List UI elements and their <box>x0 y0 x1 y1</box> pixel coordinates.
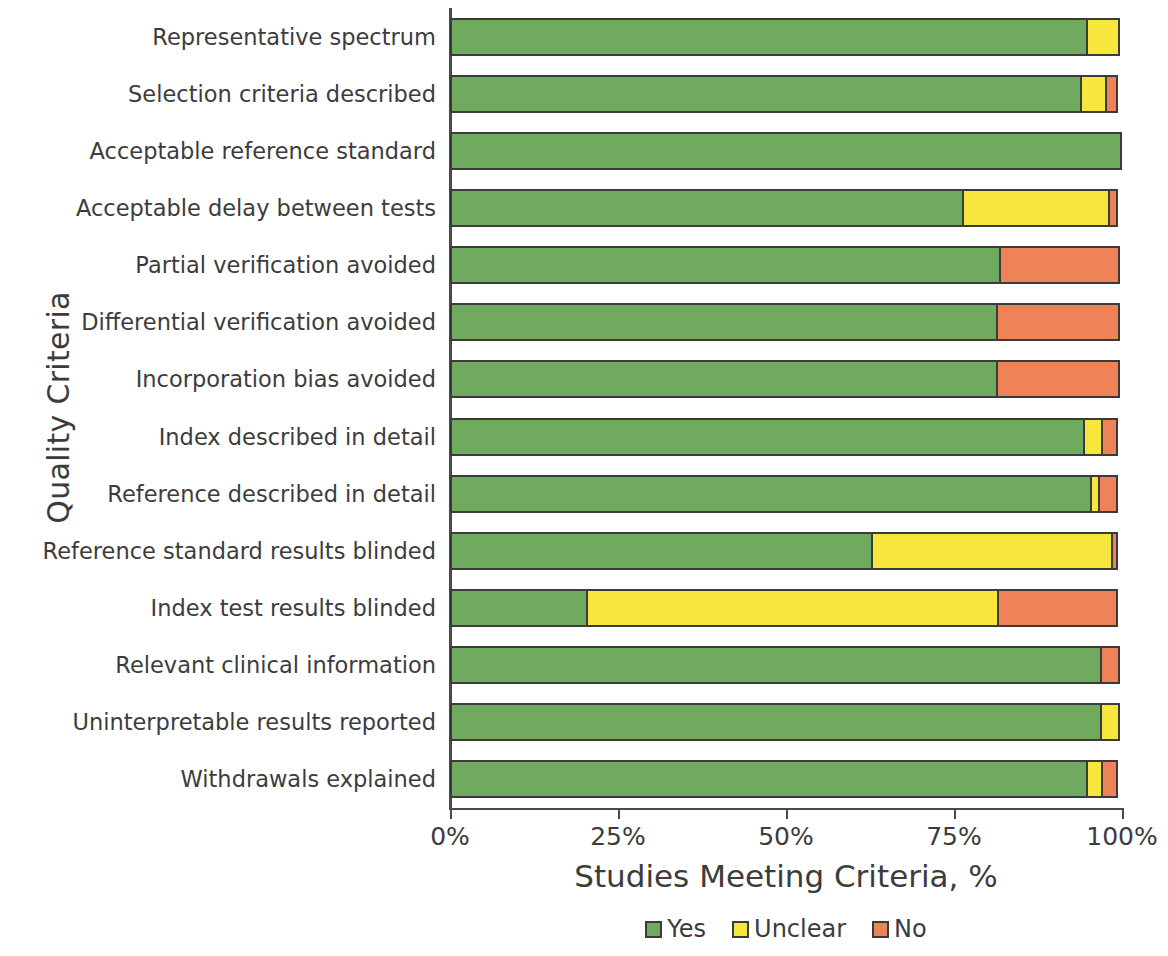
category-label: Acceptable delay between tests <box>20 189 450 227</box>
legend-label: No <box>894 915 927 943</box>
bar-segment-yes <box>450 360 998 398</box>
bar-segment-no <box>997 589 1118 627</box>
bar-segment-no <box>1098 475 1118 513</box>
x-axis-title: Studies Meeting Criteria, % <box>450 858 1122 894</box>
x-tick-mark <box>618 808 620 819</box>
legend-label: Yes <box>667 915 706 943</box>
bar-segment-yes <box>450 18 1088 56</box>
bar-segment-unclear <box>1086 18 1120 56</box>
category-label: Reference described in detail <box>20 475 450 513</box>
bar-segment-yes <box>450 532 873 570</box>
bar-segment-yes <box>450 646 1102 684</box>
bar-segment-yes <box>450 418 1085 456</box>
bar-track <box>450 189 1122 227</box>
bar-segment-no <box>999 246 1120 284</box>
x-tick-label: 50% <box>758 822 814 851</box>
y-axis-line <box>449 8 452 808</box>
bar-segment-yes <box>450 303 998 341</box>
bar-track <box>450 18 1122 56</box>
legend-item-no[interactable]: No <box>872 915 927 943</box>
legend-item-unclear[interactable]: Unclear <box>732 915 846 943</box>
bar-row: Representative spectrum <box>450 18 1122 56</box>
bar-segment-unclear <box>586 589 999 627</box>
x-tick-label: 0% <box>430 822 470 851</box>
category-label: Differential verification avoided <box>20 303 450 341</box>
bar-track <box>450 532 1122 570</box>
bar-row: Index test results blinded <box>450 589 1122 627</box>
bar-segment-yes <box>450 189 964 227</box>
legend-label: Unclear <box>754 915 846 943</box>
legend-item-yes[interactable]: Yes <box>645 915 706 943</box>
category-label: Reference standard results blinded <box>20 532 450 570</box>
bar-track <box>450 646 1122 684</box>
bar-track <box>450 703 1122 741</box>
x-tick-label: 100% <box>1086 822 1157 851</box>
bar-track <box>450 360 1122 398</box>
bar-track <box>450 246 1122 284</box>
bar-segment-yes <box>450 589 588 627</box>
bar-track <box>450 418 1122 456</box>
stacked-bar-chart: Quality Criteria Representative spectrum… <box>0 0 1168 956</box>
bar-row: Withdrawals explained <box>450 760 1122 798</box>
category-label: Representative spectrum <box>20 18 450 56</box>
bar-row: Acceptable delay between tests <box>450 189 1122 227</box>
bar-row: Reference described in detail <box>450 475 1122 513</box>
bar-track <box>450 475 1122 513</box>
bar-row: Relevant clinical information <box>450 646 1122 684</box>
bar-track <box>450 75 1122 113</box>
category-label: Index test results blinded <box>20 589 450 627</box>
bar-segment-unclear <box>962 189 1110 227</box>
bar-track <box>450 132 1122 170</box>
bar-row: Index described in detail <box>450 418 1122 456</box>
bar-segment-unclear <box>1080 75 1107 113</box>
bar-segment-yes <box>450 246 1001 284</box>
category-label: Uninterpretable results reported <box>20 703 450 741</box>
x-tick-label: 25% <box>590 822 646 851</box>
category-label: Relevant clinical information <box>20 646 450 684</box>
bar-segment-yes <box>450 475 1092 513</box>
category-label: Withdrawals explained <box>20 760 450 798</box>
legend-swatch-icon <box>645 921 662 938</box>
bar-track <box>450 760 1122 798</box>
bar-row: Acceptable reference standard <box>450 132 1122 170</box>
bar-segment-unclear <box>1100 703 1120 741</box>
bar-track <box>450 303 1122 341</box>
bar-row: Reference standard results blinded <box>450 532 1122 570</box>
bar-segment-yes <box>450 75 1082 113</box>
bar-segment-yes <box>450 132 1122 170</box>
bar-segment-yes <box>450 760 1088 798</box>
bar-row: Incorporation bias avoided <box>450 360 1122 398</box>
category-label: Selection criteria described <box>20 75 450 113</box>
category-label: Incorporation bias avoided <box>20 360 450 398</box>
legend: YesUnclearNo <box>450 915 1122 943</box>
x-tick-mark <box>954 808 956 819</box>
bar-track <box>450 589 1122 627</box>
bar-segment-no <box>1105 75 1118 113</box>
bar-segment-no <box>1108 189 1118 227</box>
bar-row: Uninterpretable results reported <box>450 703 1122 741</box>
category-label: Partial verification avoided <box>20 246 450 284</box>
x-tick-mark <box>1122 808 1124 819</box>
bar-segment-no <box>996 303 1120 341</box>
x-tick-mark <box>786 808 788 819</box>
bar-segment-unclear <box>1083 418 1103 456</box>
legend-swatch-icon <box>872 921 889 938</box>
x-tick-label: 75% <box>926 822 982 851</box>
x-tick-mark <box>450 808 452 819</box>
bar-row: Differential verification avoided <box>450 303 1122 341</box>
bar-segment-unclear <box>871 532 1113 570</box>
bar-segment-no <box>996 360 1120 398</box>
plot-area: Representative spectrumSelection criteri… <box>450 8 1122 808</box>
category-label: Acceptable reference standard <box>20 132 450 170</box>
category-label: Index described in detail <box>20 418 450 456</box>
bar-segment-yes <box>450 703 1102 741</box>
bar-segment-no <box>1100 646 1120 684</box>
bar-segment-no <box>1111 532 1118 570</box>
bar-row: Selection criteria described <box>450 75 1122 113</box>
legend-swatch-icon <box>732 921 749 938</box>
bar-row: Partial verification avoided <box>450 246 1122 284</box>
bar-segment-no <box>1101 418 1118 456</box>
bar-segment-no <box>1101 760 1118 798</box>
